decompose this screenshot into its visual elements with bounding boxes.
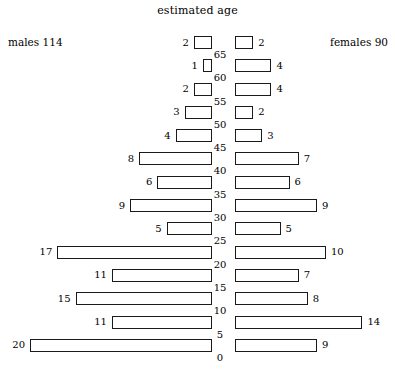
- female-bar: [235, 129, 262, 142]
- female-bar: [235, 222, 281, 235]
- male-bar: [30, 339, 212, 352]
- male-bar-value: 9: [119, 201, 125, 211]
- male-bar-group: 17: [40, 246, 212, 259]
- pyramid-row: 11145: [0, 316, 395, 339]
- male-bar: [157, 176, 212, 189]
- female-bar: [235, 269, 299, 282]
- female-bar-group: 4: [235, 59, 283, 72]
- female-bar-group: 7: [235, 269, 310, 282]
- female-bar-group: 6: [235, 176, 301, 189]
- female-bar: [235, 246, 326, 259]
- male-bar-group: 8: [128, 152, 212, 165]
- female-bar-group: 7: [235, 152, 310, 165]
- male-bar-group: 11: [94, 269, 212, 282]
- male-bar: [203, 59, 212, 72]
- male-bar-value: 1: [192, 61, 198, 71]
- female-bar-group: 10: [235, 246, 344, 259]
- male-bar: [76, 292, 213, 305]
- female-bar-group: 14: [235, 316, 380, 329]
- male-bar-value: 2: [182, 84, 188, 94]
- pyramid-row: 4345: [0, 129, 395, 152]
- female-bar-group: 9: [235, 339, 328, 352]
- male-bar-value: 6: [146, 177, 152, 187]
- pyramid-row: 11715: [0, 269, 395, 292]
- female-bar: [235, 152, 299, 165]
- female-bar-value: 9: [322, 201, 328, 211]
- female-bar: [235, 339, 317, 352]
- female-bar-value: 5: [286, 224, 292, 234]
- female-bar-value: 2: [258, 38, 264, 48]
- male-bar: [112, 316, 212, 329]
- female-bar-value: 7: [304, 154, 310, 164]
- pyramid-row: 1460: [0, 59, 395, 82]
- male-bar: [57, 246, 212, 259]
- male-bar-group: 1: [192, 59, 212, 72]
- female-bar-value: 4: [276, 61, 282, 71]
- male-bar-group: 15: [58, 292, 212, 305]
- male-bar: [194, 83, 212, 96]
- pyramid-row: 2455: [0, 83, 395, 106]
- female-bar: [235, 316, 362, 329]
- male-bar-group: 20: [12, 339, 212, 352]
- male-bar-group: 2: [182, 36, 212, 49]
- female-bar-value: 6: [295, 177, 301, 187]
- female-bar-value: 10: [331, 247, 344, 257]
- male-bar-value: 8: [128, 154, 134, 164]
- male-bar-value: 11: [94, 270, 107, 280]
- female-bar-group: 4: [235, 83, 283, 96]
- male-bar-group: 4: [164, 129, 212, 142]
- female-bar-value: 2: [258, 107, 264, 117]
- pyramid-row: 2090: [0, 339, 395, 362]
- male-bar: [167, 222, 213, 235]
- male-bar-value: 11: [94, 317, 107, 327]
- male-bar-value: 5: [155, 224, 161, 234]
- pyramid-row: 8740: [0, 152, 395, 175]
- female-bar-group: 5: [235, 222, 292, 235]
- female-bar: [235, 106, 253, 119]
- female-bar-value: 14: [367, 317, 380, 327]
- male-bar-value: 20: [12, 340, 25, 350]
- female-bar: [235, 36, 253, 49]
- male-bar-value: 17: [40, 247, 53, 257]
- chart-title: estimated age: [0, 4, 395, 17]
- male-bar-value: 2: [182, 38, 188, 48]
- pyramid-rows: 2265146024553250434587406635993055251710…: [0, 36, 395, 362]
- female-bar-group: 3: [235, 129, 274, 142]
- male-bar-group: 5: [155, 222, 212, 235]
- female-bar-group: 9: [235, 199, 328, 212]
- female-bar: [235, 59, 271, 72]
- male-bar: [185, 106, 212, 119]
- male-bar-value: 15: [58, 294, 71, 304]
- male-bar-group: 6: [146, 176, 212, 189]
- pyramid-row: 15810: [0, 292, 395, 315]
- female-bar-value: 9: [322, 340, 328, 350]
- female-bar: [235, 83, 271, 96]
- female-bar-group: 2: [235, 106, 265, 119]
- female-bar: [235, 199, 317, 212]
- male-bar: [139, 152, 212, 165]
- male-bar: [176, 129, 212, 142]
- population-pyramid-chart: estimated age males 114 females 90 22651…: [0, 0, 395, 383]
- female-bar-value: 8: [313, 294, 319, 304]
- pyramid-row: 6635: [0, 176, 395, 199]
- male-bar: [130, 199, 212, 212]
- male-bar-value: 4: [164, 131, 170, 141]
- female-bar-group: 8: [235, 292, 319, 305]
- female-bar: [235, 176, 290, 189]
- female-bar-value: 7: [304, 270, 310, 280]
- male-bar: [112, 269, 212, 282]
- age-axis-tick: 0: [205, 353, 235, 363]
- pyramid-row: 3250: [0, 106, 395, 129]
- male-bar: [194, 36, 212, 49]
- male-bar-value: 3: [173, 107, 179, 117]
- female-bar-value: 4: [276, 84, 282, 94]
- male-bar-group: 3: [173, 106, 212, 119]
- pyramid-row: 171020: [0, 246, 395, 269]
- female-bar-group: 2: [235, 36, 265, 49]
- male-bar-group: 2: [182, 83, 212, 96]
- pyramid-row: 2265: [0, 36, 395, 59]
- female-bar: [235, 292, 308, 305]
- pyramid-row: 5525: [0, 222, 395, 245]
- female-bar-value: 3: [267, 131, 273, 141]
- pyramid-row: 9930: [0, 199, 395, 222]
